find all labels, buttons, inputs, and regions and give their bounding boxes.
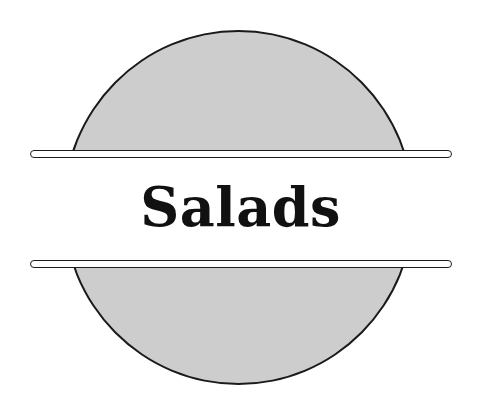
salads-divider-graphic: Salads xyxy=(0,0,481,413)
bottom-rule xyxy=(30,260,452,268)
page-title: Salads xyxy=(0,176,481,238)
top-rule xyxy=(30,150,452,158)
